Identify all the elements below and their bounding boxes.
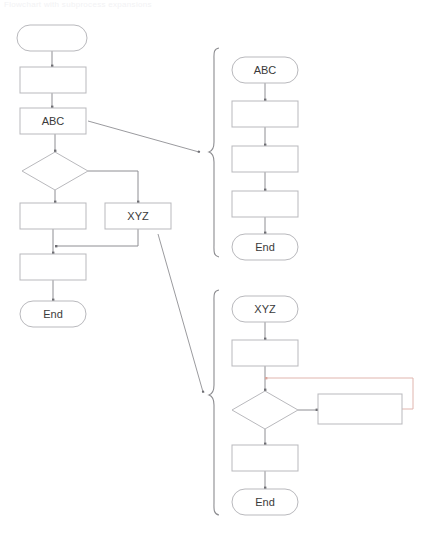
xyz-curly-brace: [209, 290, 219, 515]
main-flowchart: ABC XYZ End: [17, 25, 171, 327]
xyz-process2-box[interactable]: [232, 445, 298, 471]
connector-decision-to-xyz: [88, 171, 138, 202]
start-terminator[interactable]: [17, 25, 87, 51]
decision-diamond[interactable]: [22, 152, 88, 190]
process-left-box[interactable]: [20, 203, 86, 229]
xyz-loop-box[interactable]: [318, 394, 402, 424]
flowchart-diagram: ABC XYZ End ABC: [0, 0, 423, 533]
xyz-start-terminator-label: XYZ: [254, 303, 276, 315]
abc-start-terminator-label: ABC: [254, 64, 277, 76]
abc-process1-box[interactable]: [232, 101, 298, 127]
abc-expansion-link: [88, 121, 199, 152]
xyz-end-terminator-label: End: [255, 496, 275, 508]
abc-box-label: ABC: [42, 115, 65, 127]
abc-curly-brace: [209, 48, 219, 257]
end-terminator-label: End: [43, 308, 63, 320]
abc-subflowchart: ABC End: [209, 48, 298, 260]
xyz-subflowchart: XYZ End: [209, 290, 413, 515]
process1-box[interactable]: [20, 67, 86, 93]
xyz-expansion-link: [158, 234, 203, 392]
xyz-decision-diamond[interactable]: [232, 391, 298, 429]
connector-xyz-to-merge: [56, 229, 138, 246]
abc-process2-box[interactable]: [232, 146, 298, 172]
xyz-box-label: XYZ: [127, 210, 149, 222]
abc-process3-box[interactable]: [232, 191, 298, 217]
xyz-process1-box[interactable]: [232, 340, 298, 366]
diagram-canvas: Flowchart with subprocess expansions: [0, 0, 423, 533]
abc-end-terminator-label: End: [255, 241, 275, 253]
expansion-links: [88, 121, 203, 392]
process2-box[interactable]: [20, 254, 86, 280]
